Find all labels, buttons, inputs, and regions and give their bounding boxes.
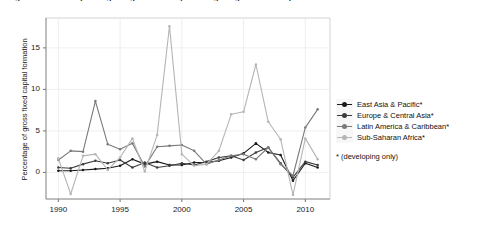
y-axis-title: Percentage of gross fixed capital format…	[20, 30, 29, 190]
legend-label: Sub-Saharan Africa*	[357, 133, 425, 142]
legend-entry[interactable]: Europe & Central Asia*	[336, 110, 449, 121]
x-tick-label: 2010	[285, 205, 325, 214]
y-tick-label: 0	[16, 167, 40, 176]
legend-label: East Asia & Pacific*	[357, 100, 422, 109]
legend-entry[interactable]: Latin America & Caribbean*	[336, 121, 449, 132]
x-tick-label: 1990	[38, 205, 78, 214]
line-chart: Percentage of gross fixed capital format…	[0, 0, 498, 250]
x-tick-label: 2005	[224, 205, 264, 214]
legend-label: Latin America & Caribbean*	[357, 122, 449, 131]
legend-entry[interactable]: East Asia & Pacific*	[336, 99, 449, 110]
legend-key-icon	[336, 132, 353, 143]
y-tick-label: 10	[16, 84, 40, 93]
chart-legend: East Asia & Pacific*Europe & Central Asi…	[336, 99, 449, 161]
legend-label: Europe & Central Asia*	[357, 111, 434, 120]
legend-entry[interactable]: Sub-Saharan Africa*	[336, 132, 449, 143]
y-tick-label: 5	[16, 126, 40, 135]
legend-note: * (developing only)	[336, 152, 449, 161]
x-tick-label: 2000	[162, 205, 202, 214]
legend-key-icon	[336, 121, 353, 132]
legend-entries: East Asia & Pacific*Europe & Central Asi…	[336, 99, 449, 143]
legend-key-icon	[336, 110, 353, 121]
legend-key-icon	[336, 99, 353, 110]
x-tick-label: 1995	[100, 205, 140, 214]
y-tick-label: 15	[16, 43, 40, 52]
